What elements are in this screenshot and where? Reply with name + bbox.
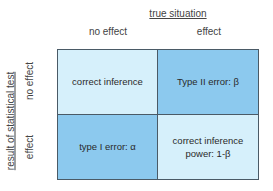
row-label-effect: effect: [22, 115, 36, 179]
column-label-effect: effect: [159, 26, 259, 37]
decision-matrix: correct inference Type II error: β type …: [57, 49, 259, 180]
row-label-no-effect-text: no effect: [24, 62, 35, 100]
column-label-no-effect: no effect: [58, 26, 158, 37]
cell-correct-inference-power: correct inference power: 1-β: [158, 115, 258, 180]
cell-text: correct inference: [72, 75, 143, 88]
cell-type-i-error: type I error: α: [58, 115, 158, 180]
cell-text: correct inference: [173, 134, 244, 147]
cell-correct-inference-no-effect: correct inference: [58, 50, 158, 115]
cell-text: Type II error: β: [177, 75, 239, 88]
row-label-effect-text: effect: [24, 135, 35, 159]
statistical-test-title: result of statistical test: [4, 58, 16, 183]
true-situation-title: true situation: [128, 8, 228, 19]
row-label-no-effect: no effect: [22, 49, 36, 113]
cell-type-ii-error: Type II error: β: [158, 50, 258, 115]
cell-text: type I error: α: [79, 140, 136, 153]
statistical-test-title-text: result of statistical test: [5, 71, 16, 169]
cell-subtext: power: 1-β: [185, 147, 230, 160]
